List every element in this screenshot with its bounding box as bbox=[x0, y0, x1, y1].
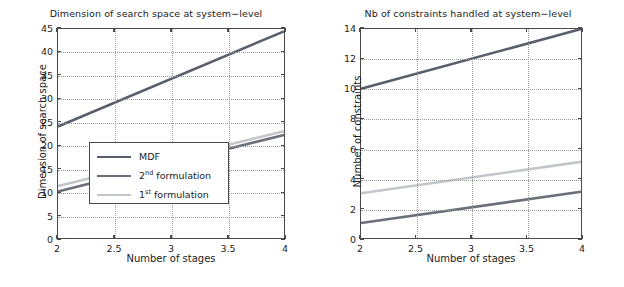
x-tick-top bbox=[170, 28, 171, 32]
y-tick bbox=[57, 27, 61, 28]
y-tick-right bbox=[281, 74, 285, 75]
y-tick-right bbox=[578, 58, 582, 59]
y-axis-title-right: Number of constraints bbox=[352, 26, 363, 237]
y-tick-right bbox=[281, 98, 285, 99]
plot-area-left bbox=[57, 28, 285, 239]
legend-label-mdf: MDF bbox=[139, 151, 160, 162]
y-tick bbox=[57, 51, 61, 52]
x-tick-top bbox=[227, 28, 228, 32]
chart-title-left: Dimension of search space at system−leve… bbox=[0, 8, 312, 19]
x-tick-top bbox=[56, 28, 57, 32]
x-tick bbox=[170, 235, 171, 239]
legend-label-formulation1: 1st formulation bbox=[139, 188, 209, 200]
legend-item-formulation1[interactable]: 1st formulation bbox=[90, 185, 228, 204]
x-tick bbox=[284, 235, 285, 239]
series-line-mdf bbox=[361, 29, 581, 89]
series-line-2nd-formulation bbox=[361, 192, 581, 223]
legend-label-formulation2: 2nd formulation bbox=[139, 169, 211, 181]
legend-item-mdf[interactable]: MDF bbox=[90, 147, 228, 166]
x-tick-top bbox=[284, 28, 285, 32]
y-tick-right bbox=[281, 215, 285, 216]
legend-swatch-formulation2 bbox=[97, 175, 131, 177]
y-tick bbox=[360, 238, 364, 239]
y-tick-right bbox=[281, 121, 285, 122]
y-tick-right bbox=[578, 148, 582, 149]
y-tick bbox=[57, 121, 61, 122]
x-tick bbox=[56, 235, 57, 239]
y-tick-right bbox=[281, 168, 285, 169]
y-tick-right bbox=[578, 118, 582, 119]
series-lines-right bbox=[361, 29, 581, 238]
x-axis-title-left: Number of stages bbox=[57, 253, 285, 264]
x-tick bbox=[526, 235, 527, 239]
y-tick-right bbox=[281, 192, 285, 193]
series-line-1st-formulation bbox=[361, 162, 581, 193]
y-tick bbox=[57, 145, 61, 146]
legend-swatch-formulation1 bbox=[97, 194, 131, 196]
y-tick-right bbox=[281, 145, 285, 146]
y-tick-right bbox=[578, 88, 582, 89]
x-tick bbox=[227, 235, 228, 239]
chart-title-right: Nb of constraints handled at system−leve… bbox=[312, 8, 624, 19]
series-line-mdf bbox=[58, 31, 284, 126]
y-tick-right bbox=[578, 208, 582, 209]
chart-panel-right: Nb of constraints handled at system−leve… bbox=[312, 0, 624, 287]
x-tick-top bbox=[470, 28, 471, 32]
y-axis-title-left: Dimension of search space bbox=[37, 26, 48, 237]
y-tick-right bbox=[578, 178, 582, 179]
y-tick bbox=[57, 238, 61, 239]
x-axis-title-right: Number of stages bbox=[360, 253, 582, 264]
chart-panel-left: Dimension of search space at system−leve… bbox=[0, 0, 312, 287]
x-tick bbox=[581, 235, 582, 239]
x-tick-top bbox=[526, 28, 527, 32]
plot-area-right bbox=[360, 28, 582, 239]
legend-box[interactable]: MDF 2nd formulation 1st formulation bbox=[89, 142, 229, 204]
x-tick bbox=[470, 235, 471, 239]
y-tick bbox=[57, 168, 61, 169]
legend-item-formulation2[interactable]: 2nd formulation bbox=[90, 166, 228, 185]
x-tick bbox=[113, 235, 114, 239]
y-tick-right bbox=[281, 51, 285, 52]
x-tick bbox=[415, 235, 416, 239]
y-tick bbox=[57, 215, 61, 216]
y-tick bbox=[57, 74, 61, 75]
y-tick bbox=[57, 98, 61, 99]
x-tick-top bbox=[581, 28, 582, 32]
x-tick-top bbox=[113, 28, 114, 32]
x-tick-top bbox=[415, 28, 416, 32]
legend-swatch-mdf bbox=[97, 156, 131, 158]
figure-two-line-charts: Dimension of search space at system−leve… bbox=[0, 0, 624, 287]
series-lines-left bbox=[58, 29, 284, 238]
y-tick bbox=[57, 192, 61, 193]
